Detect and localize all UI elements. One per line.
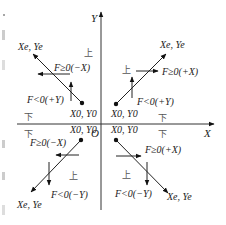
- q2-start-label: X0, Y0: [69, 108, 97, 119]
- quadrant-3: 下 X0, Y0 F≥0(−X) 上 F<0(−Y) Xe, Ye: [16, 124, 97, 210]
- q4-start-point: [114, 138, 118, 142]
- q1-f-lt-label: F<0(+Y): [136, 96, 174, 108]
- q4-f-lt-label: F<0(−Y): [114, 188, 152, 200]
- q1-start-label: X0, Y0: [110, 108, 138, 119]
- q2-f-ge-label: F≥0(−X): [53, 62, 91, 74]
- q4-up-label: 上: [122, 170, 131, 180]
- left-edge-residue: [2, 14, 5, 215]
- quadrant-4: 下 X0, Y0 F≥0(+X) 上 F<0(−Y) Xe, Ye: [110, 124, 192, 202]
- q4-start-label: X0, Y0: [110, 124, 138, 135]
- q3-f-lt-label: F<0(−Y): [50, 189, 88, 201]
- quadrant-diagram: X Y O Xe, Ye 上 F≥0(+X) F<0(+Y) X0, Y0 下 …: [0, 0, 226, 225]
- q3-end-label: Xe, Ye: [16, 199, 42, 210]
- quadrant-1: Xe, Ye 上 F≥0(+X) F<0(+Y) X0, Y0 下: [110, 39, 199, 123]
- q2-down-label: 下: [24, 112, 33, 122]
- q3-start-point: [79, 138, 83, 142]
- q1-start-point: [114, 102, 118, 106]
- q1-down-label: 下: [158, 113, 167, 123]
- q3-up-label: 上: [69, 171, 78, 181]
- y-axis-label: Y: [91, 12, 99, 24]
- q2-f-lt-label: F<0(+Y): [26, 94, 64, 106]
- q3-start-label: X0, Y0: [69, 124, 97, 135]
- x-axis-label: X: [203, 127, 212, 139]
- q4-down-label: 下: [158, 129, 167, 139]
- q1-end-label: Xe, Ye: [159, 39, 185, 50]
- q3-f-ge-label: F≥0(−X): [29, 137, 67, 149]
- q4-end-label: Xe, Ye: [166, 191, 192, 202]
- q2-up-label: 上: [84, 48, 93, 58]
- q1-up-label: 上: [122, 65, 131, 75]
- quadrant-2: Xe, Ye 上 F≥0(−X) F<0(+Y) X0, Y0 下: [17, 41, 97, 122]
- q2-start-point: [80, 101, 84, 105]
- q2-end-label: Xe, Ye: [17, 41, 43, 52]
- q4-f-ge-label: F≥0(+X): [144, 144, 182, 156]
- q1-f-ge-label: F≥0(+X): [161, 66, 199, 78]
